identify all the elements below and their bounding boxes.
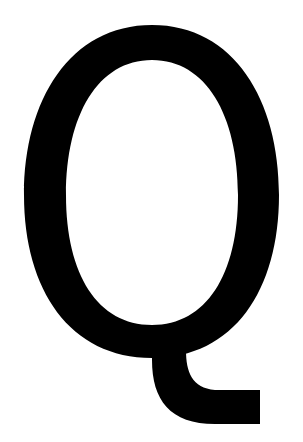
q-letter-icon [0, 0, 303, 442]
letter-q-glyph: Q [0, 0, 303, 442]
